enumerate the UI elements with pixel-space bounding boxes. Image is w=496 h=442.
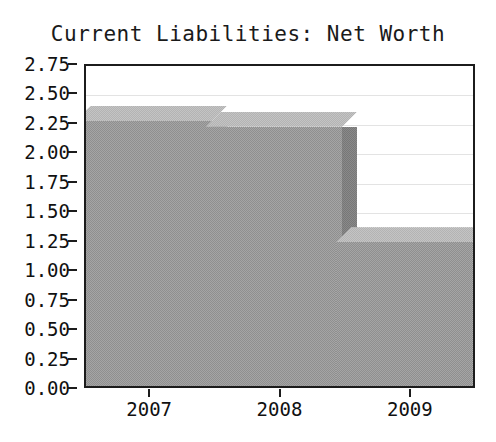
x-axis-tick-label: 2008 — [257, 398, 303, 420]
x-axis-tick-label: 2009 — [387, 398, 433, 420]
x-axis-tick-mark — [279, 389, 281, 397]
x-axis: 200720082009 — [0, 0, 496, 442]
x-axis-tick-label: 2007 — [126, 398, 172, 420]
x-axis-tick-mark — [148, 389, 150, 397]
chart-container: Current Liabilities: Net Worth 2.752.502… — [0, 0, 496, 442]
x-axis-tick-mark — [409, 389, 411, 397]
